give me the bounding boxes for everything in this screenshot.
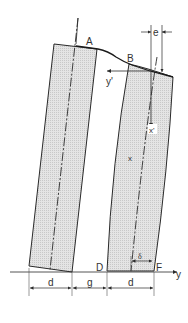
dimension-label-g: g [87,277,93,288]
dimension-label-d-left: d [48,277,54,288]
axis-label-x-prime: x' [149,126,155,135]
dimension-label-delta: δ [138,252,142,261]
point-label-f: F [156,262,162,273]
axis-label-x: x [128,154,132,163]
point-label-a: A [86,36,93,47]
right-column [107,57,173,271]
point-label-d: D [96,262,103,273]
point-label-b: B [127,53,134,64]
dimension-label-e: e [153,27,159,38]
axis-label-y: y [176,269,181,280]
dimension-label-d-right: d [128,277,134,288]
axis-label-y-prime: y' [106,76,113,87]
left-column [29,18,97,272]
column-deflection-diagram: A B D F y y' x' x e δ d g d [0,0,188,323]
